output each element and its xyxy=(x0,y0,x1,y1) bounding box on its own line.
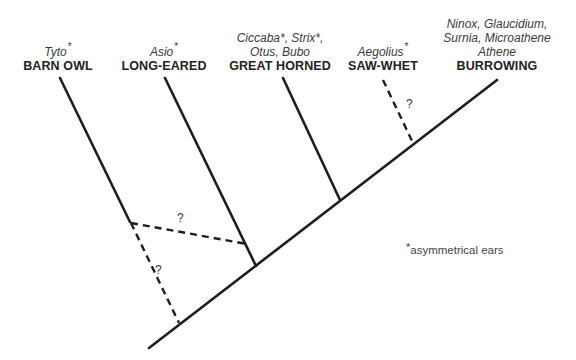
genus-name: Tyto xyxy=(44,45,66,59)
asterisk: * xyxy=(174,41,178,52)
common-name: LONG-EARED xyxy=(121,59,206,74)
main-trunk xyxy=(149,80,497,348)
footnote: *asymmetrical ears xyxy=(405,244,504,256)
asterisk: * xyxy=(406,241,410,253)
taxon-burrowing: Ninox, Glaucidium, Surnia, Microathene A… xyxy=(443,17,550,74)
common-name: BARN OWL xyxy=(23,59,93,74)
genus-names-line1: Ninox, Glaucidium, xyxy=(443,17,550,31)
asterisk: * xyxy=(68,41,72,52)
genus-names-line2: Otus, Bubo xyxy=(229,45,331,59)
asterisk: * xyxy=(405,41,409,52)
question-mark-2: ? xyxy=(155,263,162,277)
question-mark-3: ? xyxy=(406,97,413,111)
common-name: GREAT HORNED xyxy=(229,59,331,74)
footnote-text: asymmetrical ears xyxy=(410,244,503,256)
common-name: SAW-WHET xyxy=(348,59,418,74)
taxon-saw-whet: Aegolius* SAW-WHET xyxy=(348,45,418,74)
genus-names-line3: Athene xyxy=(443,45,550,59)
branch-barn-owl xyxy=(60,78,130,222)
branch-great-horned xyxy=(283,78,340,200)
genus-names-line1: Ciccaba*, Strix*, xyxy=(229,31,331,45)
question-mark-1: ? xyxy=(177,211,184,225)
taxon-great-horned: Ciccaba*, Strix*, Otus, Bubo GREAT HORNE… xyxy=(229,31,331,74)
branch-long-eared xyxy=(165,78,256,266)
dashed-branch-saw-whet xyxy=(383,80,413,143)
genus-name: Asio xyxy=(150,45,173,59)
taxon-long-eared: Asio* LONG-EARED xyxy=(121,45,206,74)
genus-names-line2: Surnia, Microathene xyxy=(443,31,550,45)
genus-name: Aegolius xyxy=(358,45,404,59)
taxon-barn-owl: Tyto* BARN OWL xyxy=(23,45,93,74)
common-name: BURROWING xyxy=(443,59,550,74)
dashed-link-barn-to-long xyxy=(131,223,247,244)
